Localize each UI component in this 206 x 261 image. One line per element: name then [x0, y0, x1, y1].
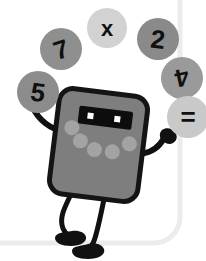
- bubble-label: x: [101, 16, 114, 41]
- bubble-x: x: [87, 8, 127, 48]
- bubble-2: 2: [137, 18, 179, 60]
- eye-right: [114, 116, 121, 123]
- mascot-body: [48, 87, 149, 203]
- illustration-canvas: 7 x 2 5 4 =: [0, 0, 206, 261]
- bubble-4: 4: [161, 57, 203, 99]
- calculator-mascot-scene: 7 x 2 5 4 =: [0, 0, 206, 261]
- bubble-5: 5: [17, 71, 59, 113]
- eye-left: [87, 113, 94, 120]
- bubble-7: 7: [40, 28, 82, 70]
- bubble-label: =: [180, 102, 195, 132]
